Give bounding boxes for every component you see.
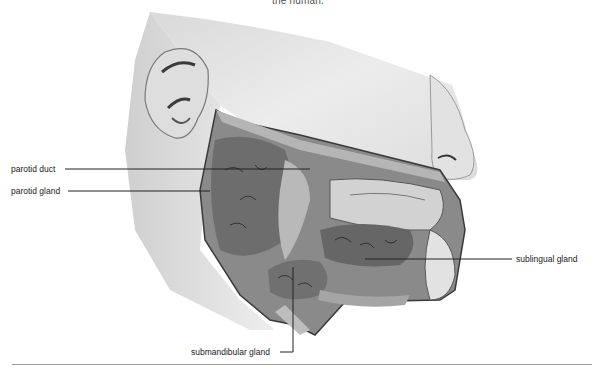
label-submandibular-gland: submandibular gland — [191, 347, 270, 357]
label-parotid-duct: parotid duct — [11, 164, 55, 174]
submandibular-gland-shape — [268, 260, 328, 300]
page-rule-divider — [12, 364, 592, 365]
label-parotid-gland: parotid gland — [11, 186, 60, 196]
sublingual-gland-shape — [320, 224, 413, 266]
label-sublingual-gland: sublingual gland — [516, 254, 577, 264]
anatomical-illustration — [0, 0, 592, 370]
